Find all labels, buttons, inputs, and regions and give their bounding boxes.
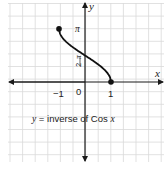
x-tick-1: 1 (108, 88, 113, 99)
x-tick-0: 0 (76, 86, 81, 97)
endpoint-dot (108, 79, 114, 85)
y-tick-pi: π (75, 24, 80, 34)
caption-mid: = inverse of Cos (36, 113, 110, 124)
graph: x y −1 0 1 π π 2 y = inverse of Cos x (0, 0, 166, 170)
y-tick-pi-half-num: π (74, 55, 83, 59)
y-axis-label: y (88, 0, 94, 12)
y-tick-pi-half-den: 2 (74, 63, 83, 67)
x-tick-neg1: −1 (53, 88, 64, 99)
x-axis-label: x (154, 67, 160, 79)
endpoint-dot (56, 26, 62, 32)
caption-arg: x (109, 114, 115, 124)
caption: y = inverse of Cos x (31, 113, 115, 124)
